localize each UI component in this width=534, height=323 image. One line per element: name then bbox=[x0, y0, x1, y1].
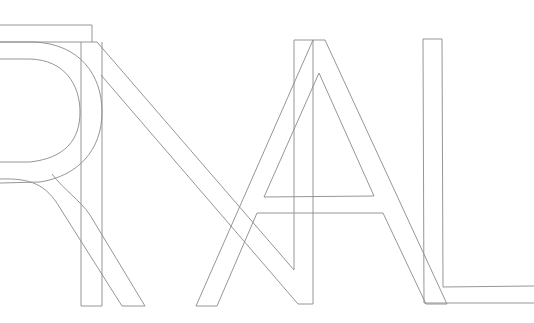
letter-n-outline bbox=[92, 40, 313, 304]
letter-a-outline bbox=[196, 40, 447, 306]
letter-r-outline bbox=[0, 42, 145, 306]
letter-l-outline bbox=[423, 39, 534, 303]
outlined-letters-artwork bbox=[0, 0, 534, 323]
letter-t-stem bbox=[81, 42, 102, 306]
letter-t-crossbar bbox=[0, 25, 92, 42]
